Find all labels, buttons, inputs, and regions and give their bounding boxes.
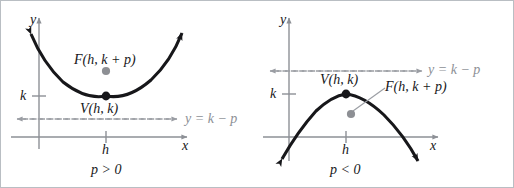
focus-point [102, 67, 110, 75]
upward-parabola-panel: y x k h F(h, k + p) V(h, k) y = k − p p … [1, 1, 258, 188]
vertex-label: V(h, k) [80, 102, 118, 116]
downward-parabola-graphic [258, 1, 514, 188]
focus-leader-line [353, 88, 385, 111]
y-axis-label: y [280, 13, 286, 27]
y-tick-label-k: k [270, 87, 276, 101]
vertex-label: V(h, k) [320, 73, 358, 87]
condition-label: p > 0 [91, 163, 121, 177]
vertex-point [102, 92, 111, 101]
downward-parabola-panel: y x k h F(h, k + p) V(h, k) y = k − p p … [258, 1, 514, 188]
y-tick-label-k: k [20, 89, 26, 103]
condition-label: p < 0 [330, 163, 360, 177]
x-axis-label: x [182, 139, 188, 153]
x-axis-label: x [430, 139, 436, 153]
focus-point [347, 110, 355, 118]
x-tick-label-h: h [102, 143, 109, 157]
parabola-curve [282, 94, 418, 161]
directrix-label: y = k − p [428, 63, 480, 77]
parabola-figure: y x k h F(h, k + p) V(h, k) y = k − p p … [0, 0, 514, 188]
vertex-point [342, 90, 351, 99]
focus-label: F(h, k + p) [74, 53, 136, 67]
focus-label: F(h, k + p) [385, 80, 447, 94]
directrix-label: y = k − p [185, 112, 237, 126]
y-axis-label: y [30, 13, 36, 27]
upward-parabola-graphic [1, 1, 258, 188]
x-tick-label-h: h [342, 143, 349, 157]
